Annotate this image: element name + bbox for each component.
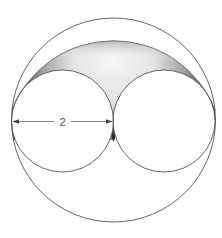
dimension-label: 2 [59,116,65,128]
geometry-diagram: 2 [0,0,222,238]
